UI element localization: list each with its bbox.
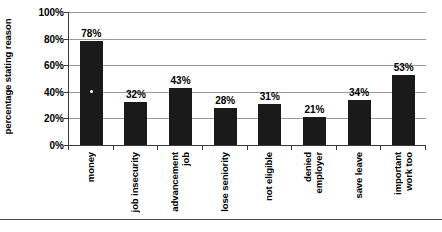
y-axis-tick-mark xyxy=(64,39,69,40)
y-axis-tick-mark xyxy=(64,92,69,93)
y-axis-title-text: percentage stating reason xyxy=(3,18,14,134)
y-axis-tick-mark xyxy=(64,118,69,119)
bar-value-label: 78% xyxy=(69,28,113,39)
x-axis-tick-mark xyxy=(68,145,69,150)
x-axis-tick-mark xyxy=(291,145,292,150)
x-axis-category-label-line: not eligible xyxy=(263,152,274,201)
bottom-divider xyxy=(0,219,442,220)
x-axis-category-label-line: work too xyxy=(403,152,414,191)
bar-value-label: 32% xyxy=(114,89,158,100)
bar xyxy=(303,117,326,145)
y-axis-tick-label: 0% xyxy=(20,140,64,151)
x-axis-category-label-line: job insecurity xyxy=(129,152,140,212)
x-axis-category-label-line: lose seniority xyxy=(219,152,230,212)
y-axis-tick-label: 100% xyxy=(20,7,64,18)
x-axis-category-label-line: denied xyxy=(302,152,313,182)
bar xyxy=(214,108,237,145)
plot-area: 78%32%43%28%31%21%34%53% xyxy=(68,12,425,145)
bar-value-label: 21% xyxy=(292,104,336,115)
y-axis-tick-label: 60% xyxy=(20,60,64,71)
y-axis-tick-mark xyxy=(64,12,69,13)
bar xyxy=(348,100,371,145)
x-axis-tick-mark xyxy=(247,145,248,150)
x-axis-tick-mark xyxy=(113,145,114,150)
bar-value-label: 34% xyxy=(337,87,381,98)
x-axis-category-label-line: money xyxy=(85,152,96,182)
gridline xyxy=(69,65,426,66)
y-axis-tick-label: 80% xyxy=(20,33,64,44)
y-axis-tick-mark xyxy=(64,65,69,66)
x-axis-category-label-line: employer xyxy=(313,152,324,193)
bar-chart-figure: percentage stating reason 0%20%40%60%80%… xyxy=(0,0,442,232)
bar-value-label: 53% xyxy=(382,62,426,73)
x-axis-tick-mark xyxy=(425,145,426,150)
gridline xyxy=(69,118,426,119)
x-axis-tick-mark xyxy=(380,145,381,150)
bar xyxy=(258,104,281,145)
x-axis-category-label-line: job xyxy=(180,152,191,166)
y-axis-tick-label: 20% xyxy=(20,113,64,124)
bar-value-label: 28% xyxy=(203,95,247,106)
gridline xyxy=(69,145,426,146)
bar-value-label: 31% xyxy=(248,91,292,102)
x-axis-category-label-line: save leave xyxy=(353,152,364,199)
bar xyxy=(169,88,192,145)
bar xyxy=(392,75,415,145)
x-axis-category-label-line: advancement xyxy=(169,152,180,212)
gridline xyxy=(69,12,426,13)
bar xyxy=(80,41,103,145)
y-axis-tick-label: 40% xyxy=(20,86,64,97)
gridline xyxy=(69,39,426,40)
y-axis-title: percentage stating reason xyxy=(0,0,16,152)
bar-value-label: 43% xyxy=(159,75,203,86)
x-axis-tick-mark xyxy=(157,145,158,150)
x-axis-category-label-line: important xyxy=(392,152,403,195)
x-axis-tick-mark xyxy=(202,145,203,150)
x-axis-tick-mark xyxy=(336,145,337,150)
y-axis-tick-labels: 0%20%40%60%80%100% xyxy=(20,0,64,160)
bar xyxy=(124,102,147,145)
